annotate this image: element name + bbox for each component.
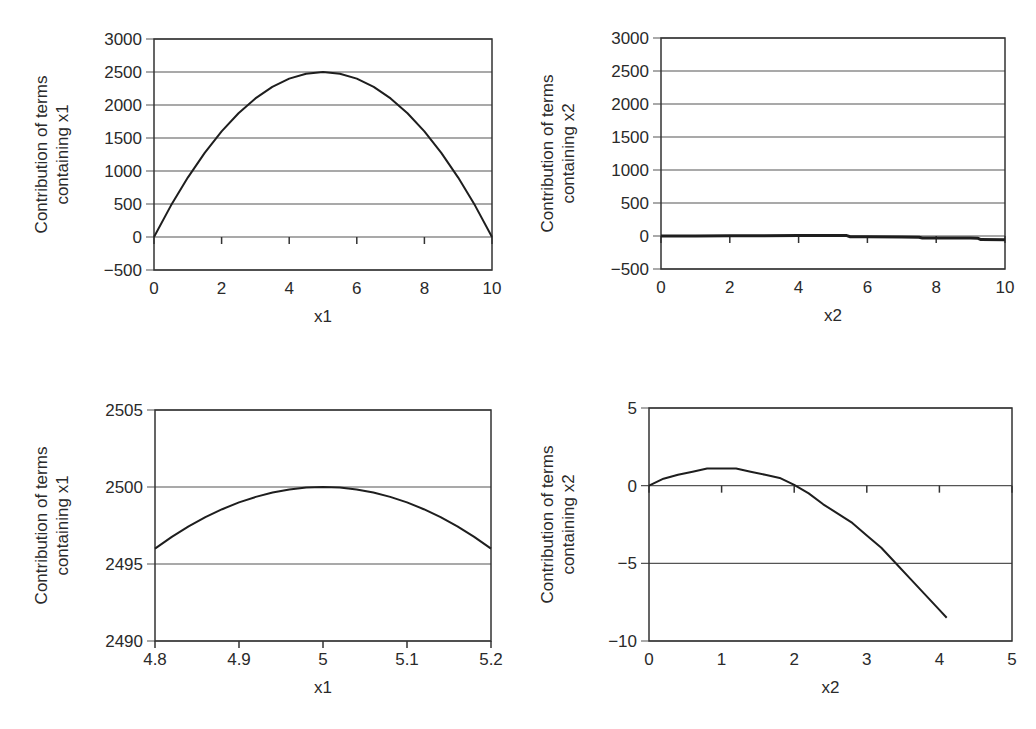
x-tick-label: 4.9 <box>227 650 251 669</box>
y-tick-label: 1500 <box>104 129 142 148</box>
y-axis-title: Contribution of terms <box>538 446 557 604</box>
chart-bottom-left: 25052500249524904.84.955.15.2x1Contribut… <box>32 401 503 697</box>
y-tick-label: 0 <box>628 477 637 496</box>
x-tick-label: 3 <box>862 650 871 669</box>
x-tick-label: 4 <box>935 650 944 669</box>
y-axis-title: Contribution of terms <box>538 75 557 233</box>
y-tick-label: 2495 <box>105 555 143 574</box>
y-axis-title: containing x1 <box>53 104 72 204</box>
x-tick-label: 0 <box>656 278 665 297</box>
x-tick-label: 4 <box>284 279 293 298</box>
x-tick-label: 6 <box>352 279 361 298</box>
y-tick-label: 2490 <box>105 632 143 651</box>
y-tick-label: 2505 <box>105 401 143 420</box>
chart-bottom-right: 50−5−10012345x2Contribution of termscont… <box>538 399 1017 697</box>
x-tick-label: 4 <box>794 278 803 297</box>
x-tick-label: 5.1 <box>395 650 419 669</box>
x-tick-label: 8 <box>420 279 429 298</box>
chart-top-right: 300025002000150010005000−5000246810x2Con… <box>538 29 1014 325</box>
x-tick-label: 5.2 <box>479 650 503 669</box>
x-tick-label: 2 <box>725 278 734 297</box>
x-tick-label: 2 <box>217 279 226 298</box>
chart-top-left: 300025002000150010005000−5000246810x1Con… <box>32 30 501 326</box>
data-line <box>649 469 947 618</box>
y-axis-title: containing x2 <box>559 103 578 203</box>
x-tick-label: 0 <box>149 279 158 298</box>
data-line <box>155 487 491 549</box>
y-tick-label: 3000 <box>104 30 142 49</box>
y-tick-label: 2500 <box>611 62 649 81</box>
y-tick-label: 500 <box>621 194 649 213</box>
x-tick-label: 5 <box>1007 650 1016 669</box>
x-tick-label: 5 <box>318 650 327 669</box>
x-axis-title: x1 <box>314 307 332 326</box>
chart-figure: 300025002000150010005000−5000246810x1Con… <box>0 0 1036 729</box>
y-axis-title: containing x1 <box>53 475 72 575</box>
plot-frame <box>649 408 1012 641</box>
y-axis-title: Contribution of terms <box>32 447 51 605</box>
y-tick-label: −500 <box>611 260 649 279</box>
y-tick-label: 0 <box>640 227 649 246</box>
y-tick-label: 1000 <box>611 161 649 180</box>
y-tick-label: −10 <box>608 632 637 651</box>
y-tick-label: −5 <box>618 554 637 573</box>
x-axis-title: x2 <box>822 678 840 697</box>
y-tick-label: 5 <box>628 399 637 418</box>
y-tick-label: 2000 <box>104 96 142 115</box>
x-tick-label: 10 <box>996 278 1015 297</box>
data-line <box>154 72 492 237</box>
x-tick-label: 0 <box>644 650 653 669</box>
y-tick-label: 500 <box>114 195 142 214</box>
y-tick-label: 1000 <box>104 162 142 181</box>
x-tick-label: 1 <box>717 650 726 669</box>
x-tick-label: 8 <box>931 278 940 297</box>
x-tick-label: 6 <box>863 278 872 297</box>
x-axis-title: x2 <box>824 306 842 325</box>
y-tick-label: 2500 <box>105 478 143 497</box>
x-tick-label: 2 <box>789 650 798 669</box>
plot-frame <box>155 410 491 641</box>
y-tick-label: 3000 <box>611 29 649 48</box>
x-axis-title: x1 <box>314 678 332 697</box>
y-tick-label: 2500 <box>104 63 142 82</box>
y-axis-title: Contribution of terms <box>32 76 51 234</box>
y-tick-label: 0 <box>133 228 142 247</box>
x-tick-label: 10 <box>483 279 502 298</box>
y-tick-label: −500 <box>104 261 142 280</box>
y-tick-label: 2000 <box>611 95 649 114</box>
y-axis-title: containing x2 <box>559 474 578 574</box>
y-tick-label: 1500 <box>611 128 649 147</box>
x-tick-label: 4.8 <box>143 650 167 669</box>
